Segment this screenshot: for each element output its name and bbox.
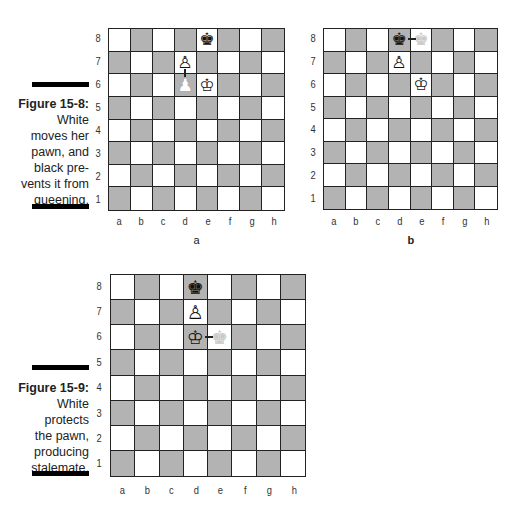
square-h2 [262, 165, 284, 188]
square-d2 [184, 426, 208, 451]
square-e1 [411, 187, 433, 210]
rank-label-7: 7 [93, 55, 103, 67]
square-g6 [240, 74, 262, 97]
square-c8 [153, 29, 175, 52]
square-g7 [454, 52, 476, 75]
rank-label-2: 2 [93, 170, 103, 182]
square-e1 [197, 187, 219, 210]
square-d2 [389, 164, 411, 187]
square-h6 [262, 74, 284, 97]
caption-bar-bottom-15-8 [32, 204, 89, 209]
square-h8 [262, 29, 284, 52]
square-g5 [454, 97, 476, 120]
square-c5 [367, 97, 389, 120]
square-d5 [184, 350, 208, 375]
square-d8: ♚ [184, 275, 208, 300]
white-king-icon: ♔ [199, 77, 214, 94]
rank-label-7: 7 [308, 55, 318, 67]
square-a1 [109, 187, 131, 210]
square-c7 [160, 300, 184, 325]
square-f4 [432, 119, 454, 142]
square-a3 [111, 401, 135, 426]
square-b8 [131, 29, 153, 52]
square-a7 [111, 300, 135, 325]
square-c3 [160, 401, 184, 426]
square-c1 [153, 187, 175, 210]
square-a2 [109, 165, 131, 188]
square-e5 [208, 350, 232, 375]
square-b7 [131, 52, 153, 75]
square-f1 [218, 187, 240, 210]
square-e7 [208, 300, 232, 325]
square-d7: ♙ [184, 300, 208, 325]
square-g3 [257, 401, 281, 426]
square-c3 [153, 142, 175, 165]
square-b1 [131, 187, 153, 210]
white-king-icon: ♔ [413, 76, 428, 93]
square-c7 [153, 52, 175, 75]
square-e2 [208, 426, 232, 451]
square-h7 [262, 52, 284, 75]
square-b5 [135, 350, 159, 375]
square-e4 [411, 119, 433, 142]
square-b6 [135, 325, 159, 350]
file-label-h: h [283, 484, 304, 496]
square-b8 [135, 275, 159, 300]
square-g6 [454, 74, 476, 97]
square-e8 [208, 275, 232, 300]
rank-label-7: 7 [94, 305, 104, 317]
square-g7 [257, 300, 281, 325]
square-h6 [475, 74, 497, 97]
square-g6 [257, 325, 281, 350]
square-a2 [324, 164, 346, 187]
square-h5 [262, 97, 284, 120]
square-c4 [367, 119, 389, 142]
file-label-h: h [265, 215, 284, 227]
move-arrow-e6-d6 [205, 336, 213, 338]
caption-line: pawn, and [0, 144, 89, 160]
file-label-g: g [456, 215, 475, 227]
square-c1 [160, 451, 184, 476]
square-a6 [111, 325, 135, 350]
square-g1 [257, 451, 281, 476]
square-a4 [324, 119, 346, 142]
file-label-b: b [347, 215, 366, 227]
square-b4 [135, 376, 159, 401]
square-a8 [324, 29, 346, 52]
square-b7 [346, 52, 368, 75]
square-c4 [160, 376, 184, 401]
square-e7 [411, 52, 433, 75]
file-label-a: a [112, 484, 133, 496]
square-f4 [232, 376, 256, 401]
square-h3 [475, 142, 497, 165]
square-b1 [135, 451, 159, 476]
square-d4 [389, 119, 411, 142]
square-f8 [232, 275, 256, 300]
file-label-c: c [161, 484, 182, 496]
rank-label-8: 8 [308, 32, 318, 44]
caption-line: vents it from [0, 176, 89, 192]
square-f3 [218, 142, 240, 165]
square-b2 [346, 164, 368, 187]
square-e4 [197, 120, 219, 143]
caption-line: moves her [0, 128, 89, 144]
square-b3 [131, 142, 153, 165]
square-h2 [281, 426, 305, 451]
square-a2 [111, 426, 135, 451]
black-king-icon: ♚ [392, 31, 407, 48]
caption-line: White [0, 396, 89, 412]
square-c6 [367, 74, 389, 97]
square-f4 [218, 120, 240, 143]
file-label-a: a [325, 215, 344, 227]
square-h4 [281, 376, 305, 401]
file-label-f: f [434, 215, 453, 227]
square-b3 [135, 401, 159, 426]
square-c6 [153, 74, 175, 97]
square-a6 [109, 74, 131, 97]
square-e2 [411, 164, 433, 187]
square-g8 [257, 275, 281, 300]
rank-label-4: 4 [94, 381, 104, 393]
square-e3 [411, 142, 433, 165]
square-f3 [232, 401, 256, 426]
square-h7 [281, 300, 305, 325]
